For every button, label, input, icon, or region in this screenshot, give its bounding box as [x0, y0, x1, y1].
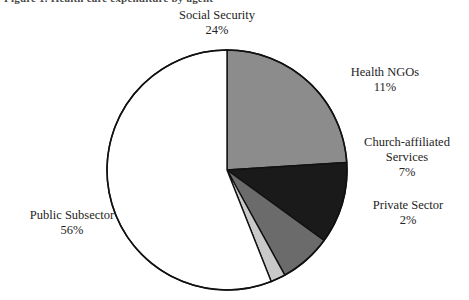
pie-label-health-ngos-value: 11% — [330, 80, 440, 95]
pie-slices — [107, 50, 347, 290]
pie-label-church-affiliated-services-name-line1: Church-affiliated — [345, 135, 469, 150]
pie-label-social-security-name: Social Security — [147, 8, 287, 23]
pie-label-private-sector: Private Sector 2% — [352, 198, 464, 228]
pie-label-public-subsector: Public Subsector 56% — [2, 208, 142, 238]
pie-label-church-affiliated-services-name-line2: Services — [345, 150, 469, 165]
pie-label-health-ngos: Health NGOs 11% — [330, 65, 440, 95]
pie-label-church-affiliated-services-value: 7% — [345, 165, 469, 180]
figure-page: Figure 1. Health care expenditure by age… — [0, 0, 469, 300]
pie-label-health-ngos-name: Health NGOs — [330, 65, 440, 80]
pie-label-social-security: Social Security 24% — [147, 8, 287, 38]
pie-label-social-security-value: 24% — [147, 23, 287, 38]
pie-label-public-subsector-value: 56% — [2, 223, 142, 238]
pie-slice-social-security — [227, 50, 347, 170]
pie-label-private-sector-name: Private Sector — [352, 198, 464, 213]
pie-label-private-sector-value: 2% — [352, 213, 464, 228]
pie-label-church-affiliated-services: Church-affiliated Services 7% — [345, 135, 469, 180]
pie-label-public-subsector-name: Public Subsector — [2, 208, 142, 223]
